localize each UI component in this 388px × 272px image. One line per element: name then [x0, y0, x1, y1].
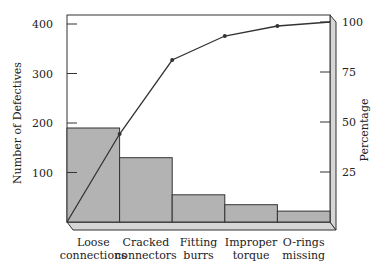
line-point: [170, 58, 174, 62]
bar: [277, 211, 330, 222]
y-tick-label: 200: [32, 117, 53, 130]
category-label: Cracked: [123, 236, 170, 249]
y2-axis-title: Percentage: [358, 99, 371, 162]
category-label: missing: [282, 249, 325, 262]
category-label: Improper: [225, 236, 278, 249]
category-label: Loose: [77, 236, 110, 249]
y2-tick-label: 75: [342, 66, 356, 79]
bar: [120, 158, 173, 222]
chart-right-wall: [330, 15, 336, 230]
y-tick-label: 400: [32, 18, 53, 31]
category-labels: LooseconnectionsCrackedconnectorsFitting…: [60, 236, 325, 262]
bar: [225, 205, 278, 222]
line-point: [118, 132, 122, 136]
pareto-chart: 100200300400 255075100 LooseconnectionsC…: [0, 0, 388, 272]
category-label: connectors: [115, 249, 177, 262]
y2-tick-label: 100: [342, 16, 363, 29]
chart-floor: [67, 222, 336, 230]
line-point: [223, 34, 227, 38]
y2-tick-label: 25: [342, 166, 356, 179]
category-label: burrs: [183, 249, 214, 262]
y2-tick-label: 50: [342, 116, 356, 129]
category-label: torque: [233, 249, 270, 262]
category-label: Fitting: [180, 236, 218, 249]
y-tick-label: 100: [32, 167, 53, 180]
bar: [172, 195, 225, 222]
y-axis-title: Number of Defectives: [11, 62, 24, 184]
line-point: [275, 24, 279, 28]
category-label: O-rings: [283, 236, 325, 249]
y-tick-label: 300: [32, 68, 53, 81]
